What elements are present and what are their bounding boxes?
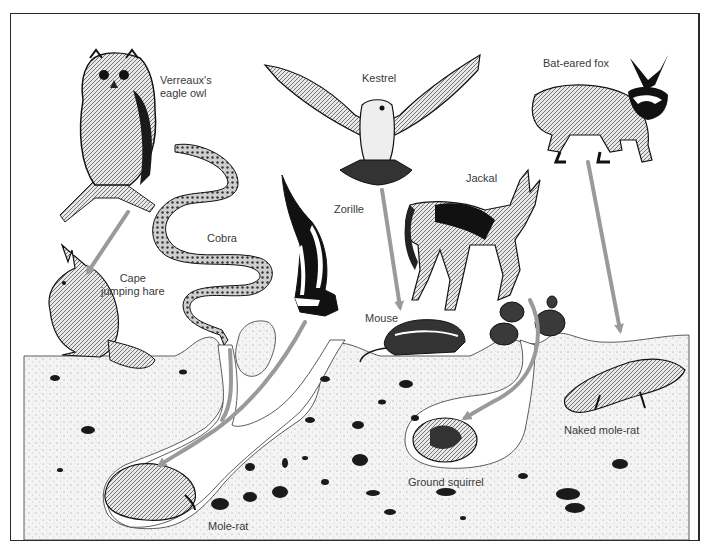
label-jackal: Jackal — [466, 172, 497, 185]
label-cobra: Cobra — [207, 232, 237, 245]
arrow-kestrel-to-mouse — [382, 190, 400, 307]
label-ground-squirrel: Ground squirrel — [408, 476, 484, 489]
label-cape-jumping-hare: Cape jumping hare — [101, 272, 165, 298]
verreaux-eagle-owl-illustration — [60, 50, 156, 222]
label-line: Cape — [101, 272, 165, 285]
arrow-fox-to-naked-mole-rat — [588, 162, 620, 330]
jackal-illustration — [405, 170, 540, 310]
ground-squirrel-illustration — [413, 418, 477, 462]
label-kestrel: Kestrel — [362, 72, 396, 85]
label-naked-mole-rat: Naked mole-rat — [564, 424, 639, 437]
bat-eared-fox-illustration — [532, 55, 668, 162]
label-mole-rat: Mole-rat — [208, 520, 248, 533]
label-zorille: Zorille — [334, 203, 364, 216]
label-line: eagle owl — [160, 87, 212, 100]
label-bat-eared-fox: Bat-eared fox — [543, 57, 609, 70]
label-verreaux-eagle-owl: Verreaux's eagle owl — [160, 74, 212, 100]
zorille-illustration — [282, 175, 338, 316]
arrow-owl-to-hare — [88, 212, 128, 272]
label-line: jumping hare — [101, 285, 165, 298]
cape-jumping-hare-illustration — [49, 245, 155, 368]
label-mouse: Mouse — [365, 312, 398, 325]
label-line: Verreaux's — [160, 74, 212, 87]
